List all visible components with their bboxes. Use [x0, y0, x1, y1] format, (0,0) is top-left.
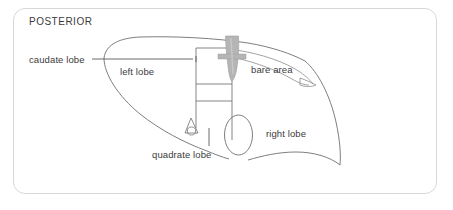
label-bare-area: bare area: [251, 64, 293, 75]
label-quadrate-lobe: quadrate lobe: [152, 149, 211, 160]
label-left-lobe: left lobe: [120, 66, 154, 77]
liver-superior-border: [104, 37, 305, 61]
label-right-lobe: right lobe: [266, 128, 306, 139]
liver-inferior-border-right: [248, 152, 340, 165]
gallbladder: [225, 115, 253, 155]
liver-anatomy-figure: POSTERIOR caudate lobe left lobe bare ar…: [0, 0, 453, 210]
ligament-circle: [187, 127, 195, 135]
orientation-label: POSTERIOR: [29, 16, 92, 27]
label-caudate-lobe: caudate lobe: [29, 54, 85, 65]
liver-diagram: [0, 0, 453, 210]
liver-right-lateral-border: [305, 61, 340, 165]
